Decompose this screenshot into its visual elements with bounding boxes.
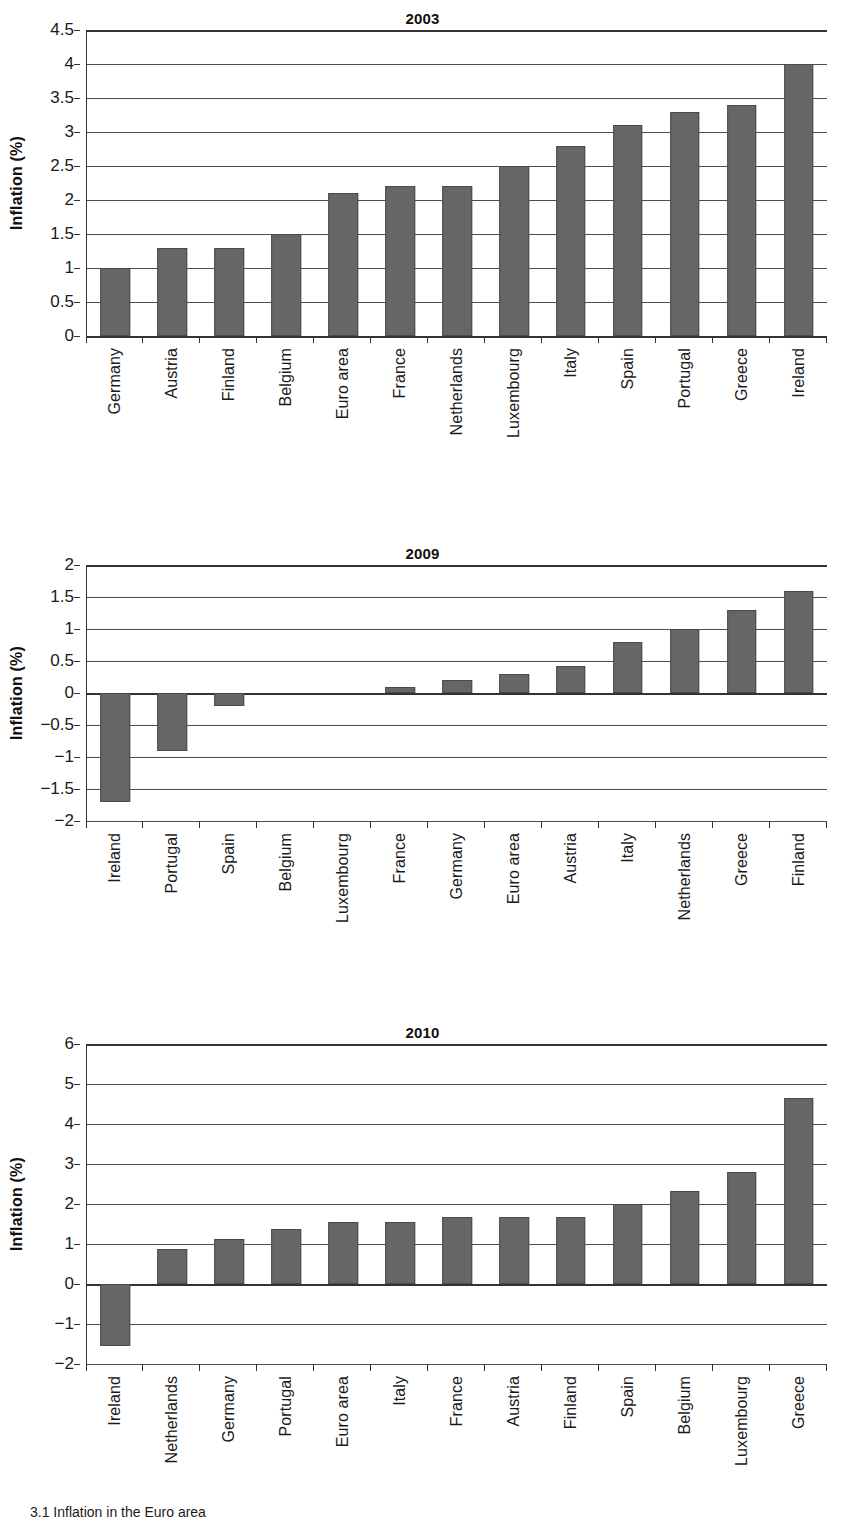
bar-slot xyxy=(770,30,827,336)
bar-slot xyxy=(87,30,144,336)
bar-slot xyxy=(87,565,144,821)
y-tick-mark xyxy=(74,336,80,337)
y-tick-mark xyxy=(74,821,80,822)
x-tick-label: Austria xyxy=(163,348,181,399)
x-tick-mark xyxy=(257,821,314,828)
bar xyxy=(328,193,358,336)
bar xyxy=(158,693,188,751)
bar-slot xyxy=(372,1044,429,1364)
x-tick-label: Greece xyxy=(733,348,751,401)
y-tick-mark xyxy=(74,132,80,133)
y-tick-label: 2.5 xyxy=(50,156,74,176)
bar xyxy=(271,1229,301,1284)
bar xyxy=(158,1249,188,1284)
x-tick-label: Euro area xyxy=(334,1376,352,1447)
x-tick-label: Greece xyxy=(733,833,751,886)
y-axis-label: Inflation (%) xyxy=(0,30,34,336)
x-tick-mark xyxy=(485,336,542,343)
x-tick-mark xyxy=(257,1364,314,1371)
x-tick-label: Portugal xyxy=(676,348,694,408)
y-tick-mark xyxy=(74,661,80,662)
bar-slot xyxy=(429,565,486,821)
x-tick-mark xyxy=(428,1364,485,1371)
plot-area xyxy=(86,1044,827,1364)
bar xyxy=(499,1217,529,1284)
bar xyxy=(215,248,245,336)
x-tick-label: Netherlands xyxy=(676,833,694,920)
x-tick-mark xyxy=(713,821,770,828)
x-tick-label: Ireland xyxy=(106,833,124,883)
x-axis-ticks xyxy=(86,1364,827,1371)
x-tick-label: Belgium xyxy=(676,1376,694,1435)
x-tick-label: Netherlands xyxy=(163,1376,181,1463)
bar xyxy=(556,146,586,336)
x-tick-mark xyxy=(656,336,713,343)
bar xyxy=(670,1191,700,1284)
y-tick-mark xyxy=(74,597,80,598)
bar xyxy=(385,186,415,336)
x-tick-label: Germany xyxy=(220,1376,238,1443)
y-tick-label: 0 xyxy=(65,1274,74,1294)
bar-slot xyxy=(542,1044,599,1364)
x-tick-label: Euro area xyxy=(505,833,523,904)
bar xyxy=(385,1222,415,1284)
y-tick-mark xyxy=(74,1244,80,1245)
bar-slot xyxy=(770,565,827,821)
y-tick-mark xyxy=(74,725,80,726)
x-tick-label: France xyxy=(391,348,409,398)
x-tick-mark xyxy=(713,1364,770,1371)
y-tick-label: 1.5 xyxy=(50,587,74,607)
bar xyxy=(442,1217,472,1284)
bar-slot xyxy=(429,30,486,336)
x-tick-mark xyxy=(200,821,257,828)
y-tick-label: 0.5 xyxy=(50,651,74,671)
y-tick-mark xyxy=(74,302,80,303)
y-tick-label: 4 xyxy=(65,54,74,74)
x-tick-label: Italy xyxy=(619,833,637,863)
bar xyxy=(784,64,814,336)
x-tick-mark xyxy=(542,1364,599,1371)
bar-slot xyxy=(713,30,770,336)
y-tick-label: 4.5 xyxy=(50,20,74,40)
x-tick-label: France xyxy=(391,833,409,883)
y-tick-label: 2 xyxy=(65,190,74,210)
y-tick-mark xyxy=(74,234,80,235)
x-tick-mark xyxy=(143,1364,200,1371)
bar-slot xyxy=(656,1044,713,1364)
bar-slot xyxy=(713,1044,770,1364)
x-tick-label: Austria xyxy=(505,1376,523,1427)
x-tick-label: Germany xyxy=(106,348,124,415)
x-tick-mark xyxy=(371,336,428,343)
x-tick-mark xyxy=(143,336,200,343)
y-tick-mark xyxy=(74,1164,80,1165)
bar-slot xyxy=(201,1044,258,1364)
bar-slot xyxy=(201,565,258,821)
y-tick-mark xyxy=(74,166,80,167)
x-tick-mark xyxy=(713,336,770,343)
y-tick-label: −1 xyxy=(55,747,74,767)
x-tick-label: Finland xyxy=(562,1376,580,1429)
bar-slot xyxy=(258,565,315,821)
chart-title: 2009 xyxy=(0,543,845,565)
x-tick-mark xyxy=(599,1364,656,1371)
bar-slot xyxy=(144,565,201,821)
x-tick-mark xyxy=(599,821,656,828)
y-tick-label: −0.5 xyxy=(40,715,74,735)
bar xyxy=(215,1239,245,1284)
bar xyxy=(727,105,757,336)
y-tick-mark xyxy=(74,1324,80,1325)
x-tick-label: Finland xyxy=(790,833,808,886)
x-tick-mark xyxy=(656,821,713,828)
x-tick-mark xyxy=(770,1364,827,1371)
bar-slot xyxy=(713,565,770,821)
x-tick-label: Italy xyxy=(562,348,580,378)
bar xyxy=(670,629,700,693)
bar xyxy=(499,166,529,336)
y-tick-mark xyxy=(74,1284,80,1285)
x-axis-ticks xyxy=(86,821,827,828)
x-tick-mark xyxy=(371,1364,428,1371)
y-tick-label: 0.5 xyxy=(50,292,74,312)
y-tick-label: 3.5 xyxy=(50,88,74,108)
y-tick-mark xyxy=(74,629,80,630)
y-tick-label: 5 xyxy=(65,1074,74,1094)
